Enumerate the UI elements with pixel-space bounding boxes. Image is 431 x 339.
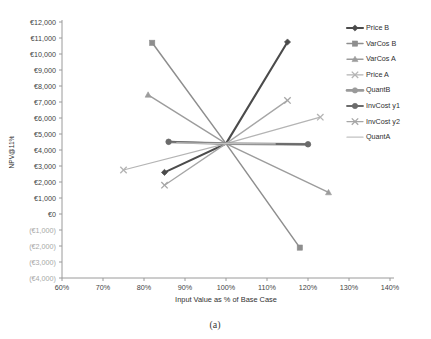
x-tick-label: 110% [258,283,276,292]
y-tick-label: €8,000 [34,82,56,91]
x-axis-title: Input Value as % of Base Case [175,295,277,304]
x-tick-label: 90% [178,283,193,292]
legend-label: Price A [366,70,389,79]
x-tick-label: 70% [96,283,111,292]
y-tick-label: €10,000 [30,50,56,59]
sensitivity-spider-chart: €12,000€11,000€10,000€9,000€8,000€7,000€… [0,0,431,339]
x-tick-label: 100% [217,283,236,292]
series-marker [150,40,155,45]
y-tick-label: €0 [48,210,56,219]
series-marker [166,139,171,144]
y-tick-label: (€4,000) [29,274,56,283]
y-tick-label: (€1,000) [29,226,56,235]
x-tick-label: 80% [137,283,152,292]
x-tick-label: 60% [55,283,70,292]
y-tick-label: (€2,000) [29,242,56,251]
legend-label: Price B [366,23,389,32]
x-tick-label: 120% [299,283,318,292]
y-tick-label: €9,000 [34,66,56,75]
y-tick-label: €3,000 [34,162,56,171]
series-marker [297,245,302,250]
legend-swatch-marker [352,88,357,93]
y-tick-label: €4,000 [34,146,56,155]
y-tick-label: €2,000 [34,178,56,187]
x-tick-label: 130% [340,283,359,292]
legend-label: VarCos A [366,54,396,63]
legend-label: QuantB [366,85,391,94]
chart-canvas: €12,000€11,000€10,000€9,000€8,000€7,000€… [0,0,431,339]
legend-label: InvCost y2 [366,117,400,126]
y-tick-label: €7,000 [34,98,56,107]
y-tick-label: €5,000 [34,130,56,139]
y-tick-label: €1,000 [34,194,56,203]
series-marker [305,142,310,147]
x-tick-label: 140% [381,283,400,292]
y-tick-label: €6,000 [34,114,56,123]
figure-caption: (a) [209,319,220,331]
y-tick-label: €12,000 [30,18,56,27]
legend-swatch-marker [352,41,357,46]
legend-label: VarCos B [366,39,396,48]
legend-label: InvCost y1 [366,101,400,110]
legend-swatch-marker [352,103,357,108]
y-tick-label: (€3,000) [29,258,56,267]
legend-label: QuantA [366,132,391,141]
y-tick-label: €11,000 [31,34,56,43]
y-axis-title: NPV@11% [8,135,15,168]
